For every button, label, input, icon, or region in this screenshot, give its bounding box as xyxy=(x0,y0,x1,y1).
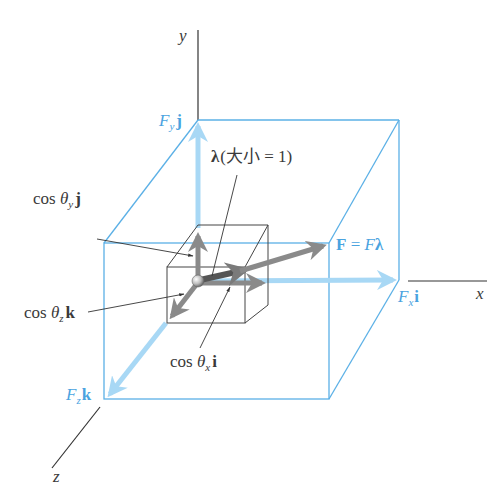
cos-z-label: cos θzk xyxy=(24,303,76,324)
fy-label: Fyj xyxy=(158,111,182,132)
z-axis-label: z xyxy=(52,467,60,486)
direction-cosine-arrows xyxy=(172,236,323,316)
axes xyxy=(52,30,487,468)
labels: y x z Fyj Fxi Fzk F = Fλ λ(大小 = 1) cos θ… xyxy=(24,26,484,486)
origin-sphere xyxy=(192,275,204,287)
fz-arrow xyxy=(110,323,166,394)
lambda-label: λ(大小 = 1) xyxy=(211,147,292,166)
z-axis-line xyxy=(52,407,100,468)
force-equation-label: F = Fλ xyxy=(336,235,384,254)
cos-y-label: cos θyj xyxy=(33,189,81,210)
leader-cos-y xyxy=(97,239,193,256)
leader-cos-x xyxy=(200,287,230,348)
leader-cos-z xyxy=(88,294,184,312)
fz-label: Fzk xyxy=(65,385,92,406)
leader-lines xyxy=(88,175,237,348)
cos-x-label: cos θxi xyxy=(170,352,217,373)
force-components-diagram: y x z Fyj Fxi Fzk F = Fλ λ(大小 = 1) cos θ… xyxy=(0,0,503,501)
component-arrows xyxy=(110,126,393,394)
x-axis-label: x xyxy=(475,284,484,303)
y-axis-label: y xyxy=(177,26,187,45)
fx-label: Fxi xyxy=(397,287,419,308)
cos-z-arrow xyxy=(172,285,196,316)
force-arrow xyxy=(240,246,323,271)
